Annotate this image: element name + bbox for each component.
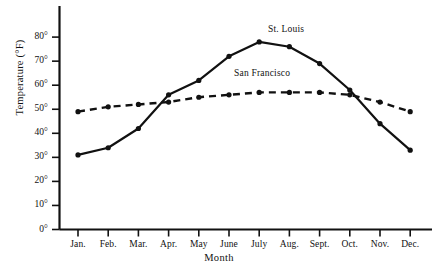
y-tick-label: 80° (14, 31, 48, 41)
series-label-san-francisco: San Francisco (234, 68, 290, 78)
data-point (136, 126, 141, 131)
data-point (287, 90, 292, 95)
y-axis-ticks (52, 37, 60, 229)
chart-series-layer (75, 39, 412, 157)
data-point (196, 78, 201, 83)
y-tick-label: 40° (14, 127, 48, 137)
y-tick-label: 20° (14, 175, 48, 185)
data-point (317, 90, 322, 95)
temperature-line-chart (0, 0, 438, 273)
series-line-st-louis (78, 42, 410, 155)
y-tick-label: 30° (14, 151, 48, 161)
y-tick-label: 10° (14, 199, 48, 209)
data-point (287, 44, 292, 49)
series-label-st-louis: St. Louis (268, 24, 304, 34)
y-tick-label: 70° (14, 55, 48, 65)
y-tick-label: 0° (14, 224, 48, 234)
data-point (75, 152, 80, 157)
data-point (166, 92, 171, 97)
x-tick-label: Dec. (387, 239, 433, 249)
chart-axes (52, 6, 432, 237)
chart-figure: Temperature (°F) Month 0°10°20°30°40°50°… (0, 0, 438, 273)
data-point (408, 109, 413, 114)
data-point (226, 92, 231, 97)
data-point (257, 39, 262, 44)
data-point (347, 92, 352, 97)
y-tick-label: 50° (14, 103, 48, 113)
x-axis-title: Month (0, 252, 438, 263)
data-point (347, 87, 352, 92)
y-tick-label: 60° (14, 79, 48, 89)
series-markers-st-louis (75, 39, 412, 157)
data-point (226, 54, 231, 59)
data-point (377, 99, 382, 104)
data-point (136, 102, 141, 107)
data-point (317, 61, 322, 66)
data-point (408, 148, 413, 153)
data-point (166, 99, 171, 104)
data-point (257, 90, 262, 95)
data-point (106, 104, 111, 109)
data-point (106, 145, 111, 150)
series-markers-san-francisco (75, 90, 412, 114)
data-point (196, 95, 201, 100)
data-point (377, 121, 382, 126)
data-point (75, 109, 80, 114)
